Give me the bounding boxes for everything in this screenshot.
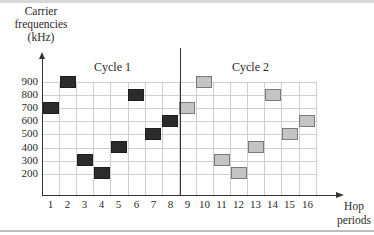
hop-block-7	[145, 128, 161, 140]
hop-block-15	[282, 128, 298, 140]
y-tick-label: 500	[10, 128, 38, 139]
cycle-divider	[180, 48, 181, 196]
top-border	[0, 0, 374, 3]
x-tick-label: 5	[110, 198, 127, 210]
bottom-border	[0, 230, 374, 232]
x-tick-label: 2	[59, 198, 76, 210]
x-tick-label: 4	[93, 198, 110, 210]
x-tick-label: 7	[145, 198, 162, 210]
x-tick-label: 10	[196, 198, 213, 210]
hop-block-3	[77, 154, 93, 166]
grid-line-v	[162, 82, 163, 195]
grid-line-v	[299, 82, 300, 195]
y-tick-label: 300	[10, 155, 38, 166]
x-axis	[42, 195, 337, 196]
x-tick-label: 13	[247, 198, 264, 210]
hop-block-1	[43, 102, 59, 114]
y-tick-label: 700	[10, 102, 38, 113]
grid-line-v	[76, 82, 77, 195]
grid-line-v	[316, 82, 317, 195]
grid-line-v	[110, 82, 111, 195]
x-axis-label-line2: periods	[332, 213, 374, 227]
hop-block-4	[94, 167, 110, 179]
y-tick-label: 200	[10, 168, 38, 179]
hop-block-5	[111, 141, 127, 153]
x-tick-label: 1	[42, 198, 59, 210]
y-axis	[42, 58, 43, 196]
hop-block-16	[299, 115, 315, 127]
grid-line-v	[247, 82, 248, 195]
hop-block-6	[128, 89, 144, 101]
hop-block-9	[179, 102, 195, 114]
x-tick-label: 8	[162, 198, 179, 210]
y-tick-label: 800	[10, 89, 38, 100]
grid-line-v	[196, 82, 197, 195]
cycle-1-label: Cycle 1	[94, 60, 131, 75]
y-tick-label: 900	[10, 76, 38, 87]
x-tick-label: 12	[230, 198, 247, 210]
x-tick-label: 15	[281, 198, 298, 210]
x-tick-label: 6	[128, 198, 145, 210]
y-axis-label-line2: frequencies	[6, 18, 76, 31]
hop-block-2	[60, 76, 76, 88]
hop-block-11	[214, 154, 230, 166]
x-tick-label: 14	[264, 198, 281, 210]
y-axis-label-line3: (kHz)	[6, 31, 76, 44]
x-axis-label: Hop periods	[332, 199, 374, 227]
x-tick-label: 16	[299, 198, 316, 210]
hop-block-14	[265, 89, 281, 101]
hop-block-12	[231, 167, 247, 179]
hop-block-10	[196, 76, 212, 88]
hop-block-8	[162, 115, 178, 127]
x-tick-label: 9	[179, 198, 196, 210]
x-axis-label-line1: Hop	[332, 199, 374, 213]
x-tick-label: 3	[76, 198, 93, 210]
x-axis-arrow-icon	[336, 192, 344, 198]
hop-block-13	[248, 141, 264, 153]
y-axis-arrow-icon	[39, 52, 45, 59]
grid-line-v	[213, 82, 214, 195]
y-tick-label: 400	[10, 142, 38, 153]
cycle-2-label: Cycle 2	[232, 60, 269, 75]
x-tick-label: 11	[213, 198, 230, 210]
y-axis-label: Carrier frequencies (kHz)	[6, 5, 76, 44]
y-tick-label: 600	[10, 115, 38, 126]
grid-line-v	[59, 82, 60, 195]
y-axis-label-line1: Carrier	[6, 5, 76, 18]
